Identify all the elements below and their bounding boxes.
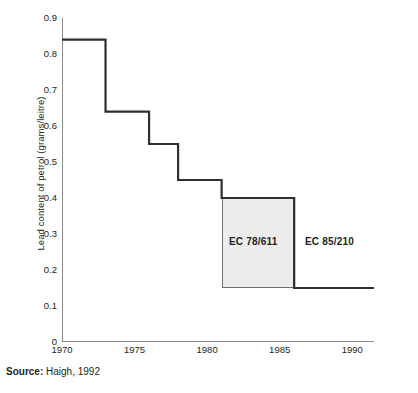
y-tick-label-0.1: 0.1 xyxy=(44,301,57,311)
source-line: Source: Haigh, 1992 xyxy=(6,366,100,377)
x-tick-label-1985: 1985 xyxy=(269,345,290,355)
source-text: Haigh, 1992 xyxy=(46,366,100,377)
y-tick-label-0.7: 0.7 xyxy=(44,85,57,95)
y-tick-label-0.2: 0.2 xyxy=(44,265,57,275)
annotation-ec-85-210: EC 85/210 xyxy=(305,236,354,247)
x-tick-label-1975: 1975 xyxy=(124,345,145,355)
x-tick-label-1980: 1980 xyxy=(197,345,218,355)
lead-content-chart-figure: Lead content of petrol (grams/leitre) 0.… xyxy=(0,0,418,393)
y-tick-label-0.5: 0.5 xyxy=(44,157,57,167)
step-line-series xyxy=(62,18,374,342)
y-tick-label-0.3: 0.3 xyxy=(44,229,57,239)
source-label: Source: xyxy=(6,366,43,377)
y-tick-label-0.4: 0.4 xyxy=(44,193,57,203)
plot-area: 0.9 0.8 0.7 0.6 0.5 0.4 0.3 0.2 0.1 0 19… xyxy=(62,18,374,342)
y-tick-label-0.8: 0.8 xyxy=(44,49,57,59)
y-tick-label-0.9: 0.9 xyxy=(44,13,57,23)
step-polyline xyxy=(62,40,374,288)
x-tick-label-1970: 1970 xyxy=(51,345,72,355)
x-tick-label-1990: 1990 xyxy=(342,345,363,355)
annotation-ec-78-611: EC 78/611 xyxy=(229,236,278,247)
y-tick-label-0.6: 0.6 xyxy=(44,121,57,131)
